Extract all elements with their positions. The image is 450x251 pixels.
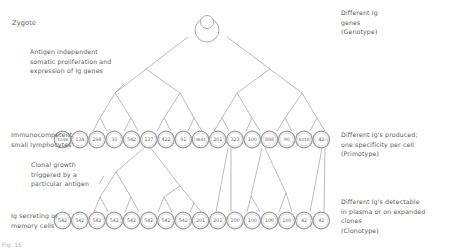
cell: 542 [158, 212, 175, 229]
cell-label: 542 [110, 218, 119, 223]
cell: 298 [89, 131, 106, 148]
cell: 542 [106, 212, 123, 229]
label-antigen-independent: Antigen independent somatic proliferatio… [30, 47, 111, 76]
label-line: Ig secreting or [11, 211, 58, 221]
cell: 542 [175, 212, 192, 229]
cell: 201 [192, 212, 209, 229]
lymphocyte-row: 1246134298305421374229136412013231008989… [54, 131, 329, 148]
cell-label: 542 [92, 218, 101, 223]
cell-label: 134 [75, 137, 84, 142]
cell: 6310 [296, 131, 313, 148]
cell-label: 100 [248, 218, 257, 223]
cell: 542 [123, 212, 140, 229]
cell: 137 [140, 131, 157, 148]
label-line: somatic proliferation and [30, 57, 111, 67]
cell-label: 542 [179, 218, 188, 223]
label-line: Different Ig's detectable [341, 197, 425, 207]
cell: 42 [313, 131, 330, 148]
label-line: particular antigen [31, 179, 89, 189]
cell-label: 100 [248, 137, 257, 142]
cell: 42 [296, 212, 313, 229]
cell-label: 100 [265, 218, 274, 223]
cell-label: 542 [127, 137, 136, 142]
label-line: memory cells [11, 221, 58, 231]
cell: 323 [227, 131, 244, 148]
cell: 201 [209, 131, 226, 148]
figure-caption: Fig. 16 [2, 241, 22, 248]
cell: 201 [209, 212, 226, 229]
cell-label: 422 [161, 137, 170, 142]
cell-label: 90 [284, 137, 290, 142]
cell-label: 298 [92, 137, 101, 142]
cell: 134 [71, 131, 88, 148]
label-line: Antigen independent [30, 47, 111, 57]
cell-label: 6310 [299, 137, 310, 142]
cell-label: 3641 [195, 137, 206, 142]
tree-lines [93, 37, 325, 212]
cell-label: 542 [75, 218, 84, 223]
cell-label: 898 [265, 137, 274, 142]
cell-label: 42 [301, 218, 307, 223]
label-line: Different Ig [341, 8, 378, 18]
label-line: Immunocompetent [11, 130, 72, 140]
cell: 100 [244, 212, 261, 229]
label-line: Clonal growth [31, 160, 89, 170]
label-immunocompetent: Immunocompetent small lymphocytes [11, 130, 72, 149]
label-clonal-growth: Clonal growth triggered by a particular … [31, 160, 89, 189]
cell: 898 [261, 131, 278, 148]
cell-label: 542 [161, 218, 170, 223]
cell: 100 [244, 131, 261, 148]
secreting-cell-row: 5425425425425425425425422012011001001001… [54, 212, 329, 229]
cell: 542 [140, 212, 157, 229]
cell: 542 [89, 212, 106, 229]
cell-label: 542 [58, 218, 67, 223]
label-line: (Genotype) [341, 27, 378, 37]
cell: 42 [313, 212, 330, 229]
label-line: Different Ig's produced; [341, 130, 418, 140]
cell-label: 91 [180, 137, 186, 142]
cell: 100 [278, 212, 295, 229]
label-line: clones [341, 216, 425, 226]
cell-label: 100 [282, 218, 291, 223]
label-clonotype: Different Ig's detectable in plasma or o… [341, 197, 425, 235]
cell-label: 201 [213, 218, 222, 223]
zygote-cell [195, 16, 219, 43]
label-ig-secreting: Ig secreting or memory cells [11, 211, 58, 230]
label-line: in plasma or on expanded [341, 207, 425, 217]
cell-label: 30 [111, 137, 117, 142]
label-line: expression of Ig genes [30, 66, 111, 76]
cell-label: 201 [196, 218, 205, 223]
label-zygote: Zygote [12, 19, 36, 29]
cell: 100 [227, 212, 244, 229]
cell-label: 323 [230, 137, 239, 142]
label-line: genes [341, 18, 378, 28]
label-line: (Primotype) [341, 149, 418, 159]
label-line: (Clonotype) [341, 226, 425, 236]
cell: 542 [123, 131, 140, 148]
cell-label: 542 [127, 218, 136, 223]
label-line: small lymphocytes [11, 140, 72, 150]
cell-label: 542 [144, 218, 153, 223]
label-line: one specificity per cell [341, 140, 418, 150]
cell: 30 [106, 131, 123, 148]
cell: 100 [261, 212, 278, 229]
label-primotype: Different Ig's produced; one specificity… [341, 130, 418, 159]
cell-label: 201 [213, 137, 222, 142]
cell-label: 42 [318, 218, 324, 223]
label-genotype: Different Ig genes (Genotype) [341, 8, 378, 37]
cell: 422 [158, 131, 175, 148]
cell: 90 [278, 131, 295, 148]
cell: 542 [71, 212, 88, 229]
cell-label: 100 [230, 218, 239, 223]
cell-label: 137 [144, 137, 153, 142]
cell: 91 [175, 131, 192, 148]
cell: 3641 [192, 131, 209, 148]
label-line: triggered by a [31, 170, 89, 180]
